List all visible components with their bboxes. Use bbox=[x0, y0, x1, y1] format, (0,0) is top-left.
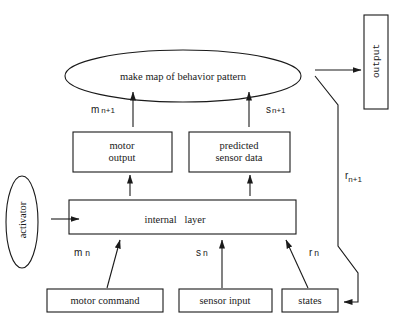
motor-output-node: motor output bbox=[73, 132, 172, 172]
motor-command-node: motor command bbox=[47, 289, 163, 312]
internal-layer-node: internal layer bbox=[69, 200, 296, 234]
s-next-label: sn+1 bbox=[266, 104, 286, 115]
states-to-internal-arrow bbox=[286, 240, 308, 288]
diagram-canvas: make map of behavior pattern output rn+1… bbox=[0, 0, 398, 329]
r-next-label: rn+1 bbox=[345, 170, 362, 184]
predicted-sensor-node: predicted sensor data bbox=[189, 132, 290, 172]
sensor-input-label: sensor input bbox=[199, 295, 250, 306]
motor-command-to-internal-arrow bbox=[107, 240, 120, 288]
feedback-arrow bbox=[315, 76, 358, 302]
m-n-label: mn bbox=[74, 247, 90, 258]
m-next-label: mn+1 bbox=[91, 104, 115, 115]
motor-command-label: motor command bbox=[70, 295, 140, 306]
predicted-sensor-line2: sensor data bbox=[216, 152, 263, 163]
states-node: states bbox=[282, 289, 338, 312]
r-n-label: rn bbox=[309, 247, 319, 258]
map-label: make map of behavior pattern bbox=[120, 71, 247, 82]
sensor-input-node: sensor input bbox=[179, 289, 272, 312]
activator-label: activator bbox=[17, 201, 28, 238]
motor-output-line2: output bbox=[109, 152, 136, 163]
internal-layer-label: internal layer bbox=[145, 214, 206, 225]
s-n-label: sn bbox=[196, 247, 208, 258]
motor-output-line1: motor bbox=[109, 140, 135, 151]
activator-node: activator bbox=[6, 176, 38, 268]
map-behavior-node: make map of behavior pattern bbox=[65, 50, 301, 102]
output-node: output bbox=[364, 15, 388, 109]
states-label: states bbox=[298, 295, 321, 306]
output-label: output bbox=[371, 44, 382, 78]
predicted-sensor-line1: predicted bbox=[219, 140, 259, 151]
